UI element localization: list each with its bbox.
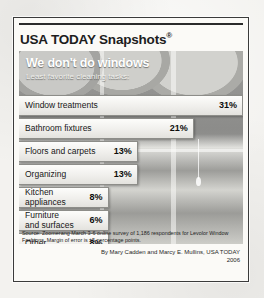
bar-label: Organizing	[19, 169, 111, 179]
chart-subhead: Least favorite cleaning tasks:	[26, 72, 237, 81]
bar-value: 8%	[87, 192, 108, 202]
registered-mark-icon: ®	[166, 31, 172, 40]
bar-row: Organizing 13%	[19, 164, 243, 185]
bar-label: Furniture and surfaces	[19, 210, 87, 230]
chart-headline: We don't do windows	[26, 56, 237, 71]
bar-organizing: Organizing 13%	[19, 164, 138, 185]
masthead-brand: USA TODAY Snapshots	[20, 32, 166, 47]
bar-value: 13%	[111, 146, 137, 156]
bar-window-treatments: Window treatments 31%	[19, 95, 243, 116]
masthead-rule	[19, 23, 243, 25]
chart-title-block: We don't do windows Least favorite clean…	[26, 56, 237, 81]
bar-label: Kitchen appliances	[19, 187, 87, 207]
bar-label: Floors and carpets	[19, 146, 111, 156]
bar-row: Window treatments 31%	[19, 95, 243, 116]
snapshot-inner: USA TODAY Snapshots® We don't do windows…	[19, 23, 243, 277]
bar-row: Bathroom fixtures 21%	[19, 118, 243, 139]
snapshot-page: USA TODAY Snapshots® We don't do windows…	[0, 0, 264, 298]
byline-year: 2006	[19, 256, 240, 264]
bar-floors-and-carpets: Floors and carpets 13%	[19, 141, 138, 162]
source-note: Source: Zoomerang March 3-6 online surve…	[19, 228, 243, 243]
snapshot-frame: USA TODAY Snapshots® We don't do windows…	[13, 17, 249, 282]
byline-credit: By Mary Cadden and Marcy E. Mullins, USA…	[101, 249, 240, 255]
bar-label: Bathroom fixtures	[19, 123, 167, 133]
bar-value: 13%	[111, 169, 137, 179]
bar-kitchen-appliances: Kitchen appliances 8%	[19, 187, 109, 208]
bar-row: Floors and carpets 13%	[19, 141, 243, 162]
byline: By Mary Cadden and Marcy E. Mullins, USA…	[19, 244, 243, 264]
bar-value: 31%	[216, 100, 242, 110]
bar-value: 21%	[167, 123, 193, 133]
bar-list: Window treatments 31% Bathroom fixtures …	[19, 95, 243, 244]
bar-row: Kitchen appliances 8%	[19, 187, 243, 208]
bar-bathroom-fixtures: Bathroom fixtures 21%	[19, 118, 194, 139]
masthead-title: USA TODAY Snapshots®	[19, 27, 243, 51]
bar-value: 6%	[87, 215, 108, 225]
chart-panel: We don't do windows Least favorite clean…	[19, 51, 243, 244]
bar-label: Window treatments	[19, 100, 216, 110]
